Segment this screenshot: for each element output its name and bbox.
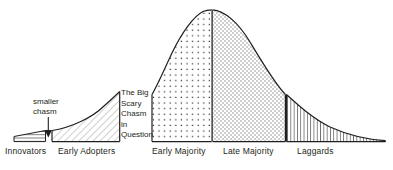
big-chasm-line4: in xyxy=(121,120,153,131)
smaller-chasm-line2: chasm xyxy=(33,107,59,117)
big-chasm-line1: The Big xyxy=(121,88,153,99)
big-scary-chasm-annotation: The Big Scary Chasm in Question xyxy=(121,88,153,141)
label-laggards: Laggards xyxy=(297,146,334,156)
segment-innovators xyxy=(14,131,46,142)
adoption-curve-diagram: smaller chasm The Big Scary Chasm in Que… xyxy=(0,0,393,170)
label-early-adopters: Early Adopters xyxy=(58,146,115,156)
adoption-curve-graphic xyxy=(0,0,393,170)
segment-early-adopters xyxy=(52,92,120,142)
big-chasm-line2: Scary xyxy=(121,99,153,110)
segment-late-majority xyxy=(213,10,286,142)
segment-early-majority xyxy=(152,10,212,142)
segment-laggards xyxy=(286,95,385,142)
big-chasm-line5: Question xyxy=(121,130,153,141)
label-innovators: Innovators xyxy=(5,146,46,156)
label-late-majority: Late Majority xyxy=(223,146,274,156)
smaller-chasm-annotation: smaller chasm xyxy=(33,97,59,116)
label-early-majority: Early Majority xyxy=(152,146,206,156)
big-chasm-line3: Chasm xyxy=(121,109,153,120)
smaller-chasm-line1: smaller xyxy=(33,97,59,107)
